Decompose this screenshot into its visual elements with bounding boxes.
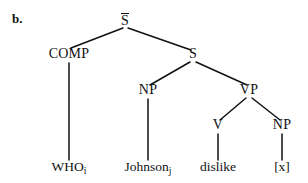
terminal-johnson-text: Johnson <box>125 159 169 174</box>
tree-edge-sbar-to-comp <box>71 28 123 48</box>
terminal-trace: [x] <box>274 160 290 174</box>
terminal-johnson: Johnsonj <box>125 160 172 174</box>
figure-canvas: b. S COMP S NP VP V NP WHOi Johnsonj dis… <box>0 0 308 183</box>
node-s-embedded: S <box>189 47 197 61</box>
node-vp-label: VP <box>240 82 258 97</box>
node-s-bar: S <box>121 13 129 28</box>
tree-edge-vp-to-v <box>220 98 246 120</box>
node-np-subject-label: NP <box>139 82 157 97</box>
node-vp: VP <box>240 83 258 97</box>
node-np-object-label: NP <box>273 117 291 132</box>
node-comp: COMP <box>49 47 89 61</box>
node-s-bar-label: S <box>121 13 129 28</box>
terminal-who: WHOi <box>52 160 87 174</box>
node-s-embedded-label: S <box>189 46 197 61</box>
terminal-trace-text: [x] <box>274 159 290 174</box>
tree-edge-sbar-to-s <box>128 28 191 50</box>
terminal-who-subscript: i <box>84 166 87 176</box>
node-v: V <box>213 118 223 132</box>
terminal-johnson-subscript: j <box>169 166 172 176</box>
terminal-dislike: dislike <box>200 160 236 174</box>
terminal-who-text: WHO <box>52 159 84 174</box>
node-comp-label: COMP <box>49 46 89 61</box>
node-np-subject: NP <box>139 83 157 97</box>
node-v-label: V <box>213 117 223 132</box>
terminal-dislike-text: dislike <box>200 159 236 174</box>
node-np-object: NP <box>273 118 291 132</box>
